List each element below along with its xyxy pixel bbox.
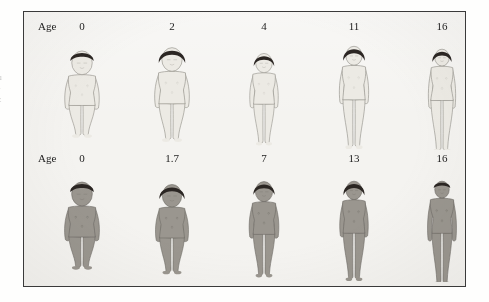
margin-cutoff-line-2: - [0,83,12,94]
margin-cutoff-text: u - c [0,72,12,105]
body-figure-row-male-age-16 [422,170,462,282]
body-figure-row-male-age-7 [244,178,284,282]
age-value-row-female-2: 4 [244,20,284,32]
margin-cutoff-line-3: c [0,94,12,105]
age-value-row-female-0: 0 [62,20,102,32]
age-word-male: Age [38,152,56,164]
growth-row-female: Age 0241116 [24,18,465,150]
margin-cutoff-line-1: u [0,72,12,83]
age-value-row-male-2: 7 [244,152,284,164]
age-label-row-female: Age 0241116 [24,18,465,38]
body-figure-row-male-age-13 [334,174,374,282]
age-value-row-female-3: 11 [334,20,374,32]
age-word-female: Age [38,20,56,32]
body-figure-row-male-age-1.7 [150,181,195,282]
age-value-row-female-4: 16 [422,20,462,32]
figure-group-female [24,38,465,150]
body-figure-row-female-age-4 [244,50,284,150]
age-label-row-male: Age 01.771316 [24,150,465,170]
body-figure-row-female-age-16 [422,40,462,150]
body-figure-row-male-age-0 [58,178,106,282]
age-value-row-male-0: 0 [62,152,102,164]
body-figure-row-female-age-2 [147,44,197,150]
age-value-row-male-4: 16 [422,152,462,164]
growth-row-male: Age 01.771316 [24,150,465,286]
age-value-row-female-1: 2 [152,20,192,32]
figure-plate: Age 0241116 [23,11,466,287]
body-figure-row-female-age-0 [59,47,105,150]
age-value-row-male-1: 1.7 [152,152,192,164]
age-value-row-male-3: 13 [334,152,374,164]
figure-group-male [24,170,465,282]
body-figure-row-female-age-11 [333,43,375,150]
figure-page: u - c Age 0241116 [0,0,489,302]
